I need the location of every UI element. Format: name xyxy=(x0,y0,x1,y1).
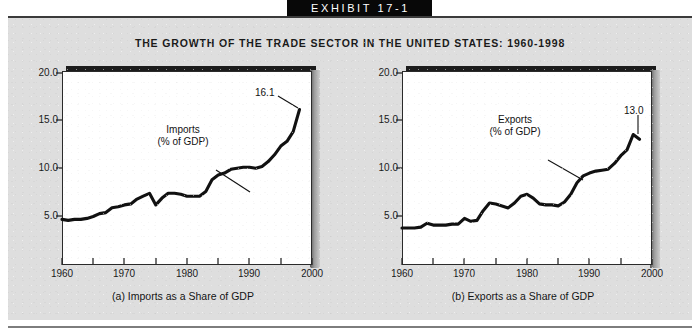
exhibit-body: THE GROWTH OF THE TRADE SECTOR IN THE UN… xyxy=(8,18,692,320)
x-tick-label: 1960 xyxy=(382,268,422,279)
endpoint-value-imports: 16.1 xyxy=(255,87,274,98)
page-title: THE GROWTH OF THE TRADE SECTOR IN THE UN… xyxy=(8,37,692,49)
y-tick-label: 20.0 xyxy=(358,67,398,78)
series-annotation-unit: (% of GDP) xyxy=(480,126,550,138)
endpoint-value-exports: 13.0 xyxy=(624,105,643,116)
exhibit-banner: EXHIBIT 17-1 xyxy=(287,0,432,16)
data-series-exports xyxy=(402,135,640,229)
x-tick-label: 2000 xyxy=(632,268,672,279)
series-annotation-exports: Exports (% of GDP) xyxy=(480,114,550,138)
bottom-divider-rule xyxy=(8,326,692,328)
y-tick-label: 5.0 xyxy=(18,210,58,221)
x-tick-label: 2000 xyxy=(292,268,332,279)
x-tick-label: 1980 xyxy=(167,268,207,279)
x-tick-label: 1970 xyxy=(444,268,484,279)
x-axis-ticks-exports xyxy=(402,258,652,265)
exhibit-page: EXHIBIT 17-1 THE GROWTH OF THE TRADE SEC… xyxy=(0,0,696,336)
leader-line-exports xyxy=(548,160,583,180)
series-annotation-name: Exports xyxy=(480,114,550,126)
y-tick-label: 15.0 xyxy=(358,114,398,125)
series-annotation-unit: (% of GDP) xyxy=(148,136,218,148)
x-axis-ticks-imports xyxy=(62,258,312,265)
y-tick-label: 10.0 xyxy=(358,162,398,173)
leader-line-imports xyxy=(216,170,250,192)
chart-panel-imports: 20.0 15.0 10.0 5.0 1960 1970 1980 1990 2… xyxy=(18,62,348,312)
x-tick-label: 1960 xyxy=(42,268,82,279)
series-annotation-name: Imports xyxy=(148,124,218,136)
chart-panel-exports: 20.0 15.0 10.0 5.0 1960 1970 1980 1990 2… xyxy=(358,62,688,312)
leader-line-endpoint-imports xyxy=(278,96,298,108)
x-tick-label: 1980 xyxy=(507,268,547,279)
y-tick-label: 15.0 xyxy=(18,114,58,125)
y-tick-label: 20.0 xyxy=(18,67,58,78)
y-tick-label: 10.0 xyxy=(18,162,58,173)
y-tick-label: 5.0 xyxy=(358,210,398,221)
x-tick-label: 1990 xyxy=(569,268,609,279)
exhibit-banner-label: EXHIBIT 17-1 xyxy=(287,0,432,16)
panel-caption-exports: (b) Exports as a Share of GDP xyxy=(358,290,688,302)
x-tick-label: 1970 xyxy=(104,268,144,279)
panel-caption-imports: (a) Imports as a Share of GDP xyxy=(18,290,348,302)
x-tick-label: 1990 xyxy=(229,268,269,279)
series-annotation-imports: Imports (% of GDP) xyxy=(148,124,218,148)
